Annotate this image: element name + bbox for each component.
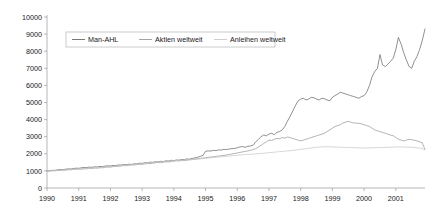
x-tick-label: 2001 bbox=[388, 194, 404, 203]
y-tick-label: 3000 bbox=[26, 132, 42, 141]
y-tick-label: 2000 bbox=[26, 149, 42, 158]
y-tick-label: 6000 bbox=[26, 81, 42, 90]
x-tick-label: 1992 bbox=[102, 194, 118, 203]
y-tick-label: 9000 bbox=[26, 30, 42, 39]
y-tick-label: 8000 bbox=[26, 47, 42, 56]
x-tick-label: 1997 bbox=[261, 194, 277, 203]
x-tick-label: 1994 bbox=[166, 194, 182, 203]
x-tick-label: 1991 bbox=[71, 194, 87, 203]
x-tick-label: 2000 bbox=[356, 194, 372, 203]
x-tick-label: 1993 bbox=[134, 194, 150, 203]
line-chart: 0100020003000400050006000700080009000100… bbox=[0, 0, 429, 223]
chart-canvas: 0100020003000400050006000700080009000100… bbox=[0, 0, 429, 223]
x-tick-label: 1996 bbox=[229, 194, 245, 203]
legend-label-2: Aktien weltweit bbox=[155, 35, 203, 44]
chart-legend: Man-AHLAktien weltweitAnleihen weltweit bbox=[66, 32, 286, 47]
y-tick-label: 4000 bbox=[26, 115, 42, 124]
legend-label-3: Anleihen weltweit bbox=[230, 35, 286, 44]
y-tick-label: 5000 bbox=[26, 98, 42, 107]
y-tick-label: 1000 bbox=[26, 167, 42, 176]
y-tick-label: 10000 bbox=[22, 13, 42, 22]
x-tick-label: 1999 bbox=[324, 194, 340, 203]
y-tick-label: 7000 bbox=[26, 64, 42, 73]
x-tick-label: 1998 bbox=[293, 194, 309, 203]
legend-label-1: Man-AHL bbox=[88, 35, 118, 44]
y-tick-label: 0 bbox=[38, 184, 42, 193]
x-tick-label: 1995 bbox=[198, 194, 214, 203]
x-tick-label: 1990 bbox=[39, 194, 55, 203]
